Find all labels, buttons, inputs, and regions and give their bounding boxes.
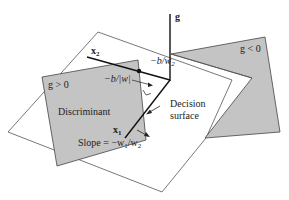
discriminant-diagram: g x2 x1 g > 0 g < 0 Discriminant Decisio… bbox=[0, 0, 289, 200]
discriminant-label: Discriminant bbox=[58, 106, 110, 117]
decision-surface-label-1: Decision bbox=[170, 98, 206, 109]
g-axis-label: g bbox=[175, 11, 180, 22]
negative-region-label: g < 0 bbox=[240, 43, 261, 54]
intercept-point bbox=[137, 69, 141, 73]
distance-label: −b/|w| bbox=[104, 73, 131, 84]
positive-region-label: g > 0 bbox=[48, 79, 69, 90]
decision-surface-label-2: surface bbox=[170, 110, 199, 121]
